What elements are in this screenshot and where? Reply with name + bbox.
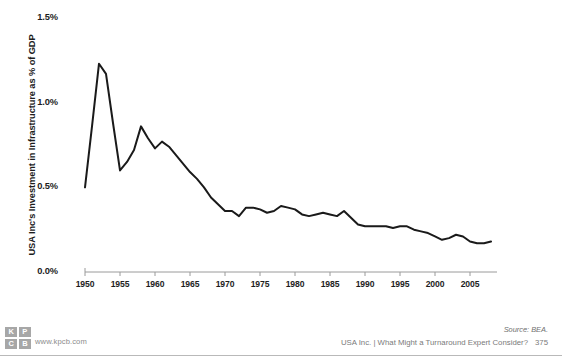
line-chart-plot xyxy=(0,0,562,306)
x-axis-tick-label: 1950 xyxy=(65,279,105,289)
x-axis-tick-label: 1980 xyxy=(275,279,315,289)
footer-divider xyxy=(0,355,562,356)
x-axis-tick-label: 2005 xyxy=(450,279,490,289)
logo-letter-p: P xyxy=(19,327,31,337)
kpcb-logo-icon: K P C B xyxy=(5,327,31,349)
deck-title-text: USA Inc. | What Might a Turnaround Exper… xyxy=(341,338,528,347)
x-axis-tick-label: 2000 xyxy=(415,279,455,289)
logo-letter-b: B xyxy=(19,339,31,349)
chart-region: USA Inc's Investment in Infrastructure a… xyxy=(0,0,562,306)
x-axis-tick-label: 1990 xyxy=(345,279,385,289)
logo-letter-c: C xyxy=(5,339,17,349)
x-axis-tick-label: 1955 xyxy=(100,279,140,289)
slide: USA Inc's Investment in Infrastructure a… xyxy=(0,0,562,364)
x-axis-tick-label: 1960 xyxy=(135,279,175,289)
kpcb-website-link[interactable]: www.kpcb.com xyxy=(35,337,87,346)
page-number: 375 xyxy=(535,338,548,347)
x-axis-tick-label: 1970 xyxy=(205,279,245,289)
x-axis-tick-label: 1975 xyxy=(240,279,280,289)
y-axis-tick-label: 0.0% xyxy=(24,266,58,276)
x-axis-tick-label: 1965 xyxy=(170,279,210,289)
y-axis-tick-label: 1.5% xyxy=(24,12,58,22)
logo-letter-k: K xyxy=(5,327,17,337)
source-note: Source: BEA. xyxy=(504,325,548,334)
x-axis-tick-label: 1995 xyxy=(380,279,420,289)
y-axis-tick-label: 0.5% xyxy=(24,181,58,191)
x-axis-tick-label: 1985 xyxy=(310,279,350,289)
deck-title-note: USA Inc. | What Might a Turnaround Exper… xyxy=(341,338,548,347)
footer: K P C B www.kpcb.com Source: BEA. USA In… xyxy=(0,306,562,364)
y-axis-tick-label: 1.0% xyxy=(24,97,58,107)
